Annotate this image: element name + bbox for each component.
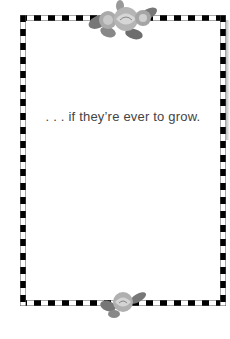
rose-icon <box>100 288 146 320</box>
checkered-border-left <box>20 15 26 306</box>
rose-cluster-icon <box>86 0 160 42</box>
page-text: . . . if they’re ever to grow. <box>26 109 220 124</box>
page-edge-shadow <box>226 20 230 140</box>
